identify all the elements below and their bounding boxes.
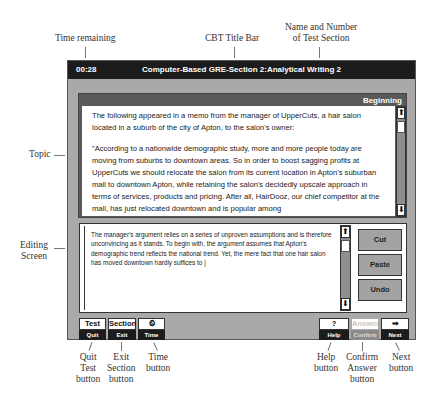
paste-button[interactable]: Paste [358, 254, 402, 276]
exit-label: Exit [108, 330, 136, 340]
confirm-label: Confirm [351, 330, 379, 340]
callout-text: button [314, 363, 338, 374]
callout-text: button [107, 374, 136, 385]
callout-text: of Test Section [285, 33, 357, 44]
scroll-down-icon[interactable]: ⬇ [397, 204, 405, 216]
callout-help: Help button [314, 352, 338, 374]
callout-text: Quit [76, 352, 100, 363]
callout-text: Screen [20, 251, 48, 262]
time-label: Time [138, 330, 165, 340]
callout-line [234, 47, 235, 58]
callout-text: Time [146, 352, 170, 363]
quit-label: Quit [79, 330, 106, 340]
quit-test-button[interactable]: Test Quit [79, 318, 106, 340]
cbt-window: 00:28 Computer-Based GRE-Section 2:Analy… [67, 60, 416, 340]
callout-time: Time button [146, 352, 170, 374]
callout-line [327, 342, 331, 351]
callout-text: Help [314, 352, 338, 363]
callout-topic: Topic [29, 149, 51, 160]
callout-text: Test [76, 363, 100, 374]
time-button[interactable]: ⏲ Time [138, 318, 165, 340]
callout-text: Name and Number [285, 22, 357, 33]
callout-confirm-answer: Confirm Answer button [346, 352, 378, 385]
callout-time-remaining: Time remaining [55, 33, 116, 44]
cut-button[interactable]: Cut [358, 229, 402, 251]
callout-text: Section [107, 363, 136, 374]
callout-text: Confirm [346, 352, 378, 363]
callout-line [85, 47, 86, 58]
next-label: Next [381, 330, 409, 340]
callout-exit-section: Exit Section button [107, 352, 136, 385]
callout-next: Next button [389, 352, 413, 374]
callout-text: Answer [346, 363, 378, 374]
callout-line [362, 342, 363, 351]
callout-text: Exit [107, 352, 136, 363]
topic-paragraph: The following appeared in a memo from th… [92, 110, 385, 134]
help-button[interactable]: ? Help [319, 318, 349, 340]
clock-icon: ⏲ [138, 318, 165, 330]
next-button[interactable]: ➡ Next [381, 318, 409, 340]
scroll-up-icon[interactable]: ⬆ [397, 107, 405, 119]
test-label: Test [79, 318, 106, 330]
exit-section-button[interactable]: Section Exit [108, 318, 136, 340]
undo-button[interactable]: Undo [358, 279, 402, 301]
callout-line [54, 155, 65, 156]
callout-line [88, 342, 92, 351]
callout-cbt-title-bar: CBT Title Bar [205, 33, 259, 44]
arrow-right-icon: ➡ [381, 318, 409, 330]
callout-line [319, 47, 320, 58]
callout-text: button [146, 363, 170, 374]
callout-line [121, 342, 122, 351]
topic-text: The following appeared in a memo from th… [82, 106, 395, 216]
confirm-answer-button[interactable]: Answer Confirm [351, 318, 379, 340]
callout-line [395, 342, 400, 351]
callout-section-name: Name and Number of Test Section [285, 22, 357, 44]
scroll-thumb[interactable] [397, 121, 405, 133]
scroll-up-icon[interactable]: ⬆ [341, 226, 350, 238]
scroll-thumb[interactable] [341, 240, 350, 252]
callout-line [153, 342, 158, 351]
topic-paragraph: "According to a nationwide demographic s… [92, 143, 385, 215]
section-title: Computer-Based GRE-Section 2:Analytical … [68, 65, 415, 74]
help-icon: ? [319, 318, 349, 330]
answer-label: Answer [351, 318, 379, 330]
callout-quit-test: Quit Test button [76, 352, 100, 385]
callout-text: Editing [20, 240, 48, 251]
callout-line [54, 248, 65, 249]
essay-textarea[interactable]: The manager's argument relies on a serie… [84, 226, 339, 310]
topic-panel: Beginning The following appeared in a me… [78, 93, 407, 218]
help-label: Help [319, 330, 349, 340]
scroll-down-icon[interactable]: ⬇ [341, 298, 350, 310]
section-label: Section [108, 318, 136, 330]
topic-position-label: Beginning [363, 96, 402, 105]
editing-screen: The manager's argument relies on a serie… [79, 223, 407, 313]
callout-text: button [76, 374, 100, 385]
editor-scrollbar[interactable]: ⬆ ⬇ [340, 225, 351, 311]
callout-editing-screen: Editing Screen [20, 240, 48, 262]
callout-text: Next [389, 352, 413, 363]
callout-text: button [389, 363, 413, 374]
title-bar: 00:28 Computer-Based GRE-Section 2:Analy… [68, 61, 415, 79]
topic-scrollbar[interactable]: ⬆ ⬇ [396, 106, 406, 217]
callout-text: button [346, 374, 378, 385]
